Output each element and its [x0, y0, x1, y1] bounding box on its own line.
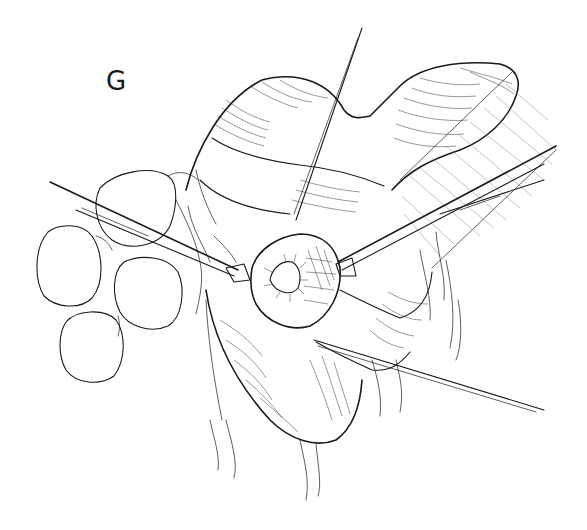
fat-lobules [37, 171, 198, 383]
illustration-canvas [0, 0, 587, 530]
retractor-left [50, 182, 250, 282]
bowel-loop-upper [186, 63, 518, 214]
opened-lumen [251, 234, 340, 328]
bowel-loop-lower [206, 272, 432, 443]
retractor-right-upper [336, 146, 556, 276]
suture-lower-right [314, 340, 544, 412]
surgical-illustration: G [0, 0, 587, 530]
